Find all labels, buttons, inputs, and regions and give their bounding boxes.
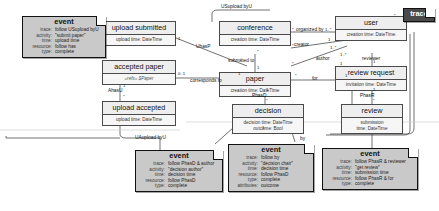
dogear-icon [304,144,314,154]
multiplicity: * [295,74,297,79]
note-event-decision-author[interactable]: event trace:follow PhasD & author activi… [135,150,223,192]
class-upload-accepted[interactable]: upload accepted upload time: DateTime [102,101,176,126]
note-rows: trace:follow PhasR & reviewer activity:"… [323,159,417,189]
class-user[interactable]: user creation time: DateTime [335,16,407,41]
multiplicity: 1..* [325,28,331,33]
multiplicity: * [292,28,294,33]
multiplicity: * [123,95,125,100]
class-name: upload submitted [103,22,175,34]
note-key: attributes: [232,183,261,189]
edge-label-for: for [312,76,318,81]
note-trace[interactable]: trace [403,8,435,22]
edge-label-ahasu: AhasU [108,88,122,93]
multiplicity: 1 [123,84,125,89]
class-name: upload accepted [103,102,175,114]
edge-label-creator: creator [294,42,309,47]
multiplicity: * [266,99,268,104]
edge-label-by: by [300,136,305,141]
multiplicity: 1 [340,62,342,67]
dogear-icon [96,16,106,26]
diagram-canvas: upload submitted upload time: DateTime a… [0,0,439,211]
class-conference[interactable]: conference creation time: DateTime [219,21,291,46]
note-value: outcome [261,183,279,189]
dogear-icon [408,148,418,158]
note-key: type: [26,49,55,55]
note-value: complete [355,181,374,187]
attribute: invitation time: DateTime [338,82,404,88]
class-decision[interactable]: decision decision time: DateTime outcome… [232,104,304,134]
note-rows: trace:follow PhasD & author activity:"de… [136,161,222,191]
attribute: upload time: DateTime [105,37,173,43]
multiplicity: 1 [238,72,240,77]
note-key: type: [139,183,168,189]
note-rows: trace:follow by activity:"decision chair… [229,155,313,191]
class-name: user [336,17,406,29]
note-event-submit-paper[interactable]: event trace:follow USupload byU activity… [22,16,106,58]
edge-label-phasd: PhasD [252,93,266,98]
multiplicity: 1 [266,88,268,93]
multiplicity: * [373,99,375,104]
note-title: event [229,145,313,155]
multiplicity: 1 [262,126,264,131]
edge-label-reviewer: reviewer [362,56,380,61]
class-attributes: upload time: DateTime [103,34,175,45]
class-name: conference [220,22,290,34]
multiplicity: 1..* [340,53,346,58]
attribute: upload time: DateTime [105,117,173,123]
class-name: paper [220,73,290,85]
dogear-icon [213,150,223,160]
note-value: complete [55,49,74,55]
multiplicity: 0..1 [178,72,185,77]
class-attributes: submission time: DateTime [342,117,402,133]
class-attributes: invitation time: DateTime [336,79,406,90]
note-title: event [23,17,105,27]
multiplicity: * [292,44,294,49]
note-row: type:complete [326,181,414,187]
edge-label-author: author [316,56,330,61]
note-title: event [136,151,222,161]
multiplicity: * [292,62,294,67]
attribute: creation time: DateTime [222,37,288,43]
attribute: decision time: DateTime [235,120,301,126]
multiplicity: 1 [373,88,375,93]
note-row: type:complete [26,49,102,55]
class-attributes: decision time: DateTime outcome: Bool [233,117,303,133]
class-attributes: creation time: DateTime [336,29,406,40]
class-attributes: upload time: DateTime [103,114,175,125]
multiplicity: 1 [178,37,180,42]
class-review[interactable]: review submission time: DateTime [341,104,403,134]
attribute: time: DateTime [344,126,400,132]
note-rows: trace:follow USupload byU activity:"subm… [23,27,105,57]
multiplicity: 1..* [330,46,336,51]
edge-label-uaupload-byu: UAupload byU [135,135,166,140]
edge-label-usupload-byu: USupload byU [221,4,252,9]
class-accepted-paper[interactable]: accepted paper «refs» $Paper [102,60,176,85]
note-value: complete [168,183,187,189]
class-upload-submitted[interactable]: upload submitted upload time: DateTime [102,21,176,46]
multiplicity: * [240,60,242,65]
multiplicity: 1 [328,38,330,43]
note-row: attributes:outcome [232,183,310,189]
edge-label-uhasp: UhasP [196,44,210,49]
attribute: outcome: Bool [235,126,301,132]
edge-label-corresponds-to: corresponds to [190,78,222,83]
note-event-get-review[interactable]: event trace:follow PhasR & reviewer acti… [322,148,418,190]
multiplicity: * [394,14,396,19]
attribute: «refs» $Paper [105,76,173,82]
note-key: type: [326,181,355,187]
note-title: event [323,149,417,159]
note-event-decision-chair[interactable]: event trace:follow by activity:"decision… [228,144,314,192]
class-attributes: creation time: DateTime [220,34,290,45]
class-name: decision [233,105,303,117]
attribute: creation time: DateTime [338,32,404,38]
dogear-icon [425,8,435,18]
class-name: review [342,105,402,117]
multiplicity: * [257,50,259,55]
multiplicity: 1 [257,66,259,71]
multiplicity: 1 [373,60,375,65]
class-name: accepted paper [103,61,175,73]
edge-label-organized-by: organized by [296,27,323,32]
note-row: type:complete [139,183,219,189]
multiplicity: 1 [345,74,347,79]
class-attributes: «refs» $Paper [103,73,175,84]
